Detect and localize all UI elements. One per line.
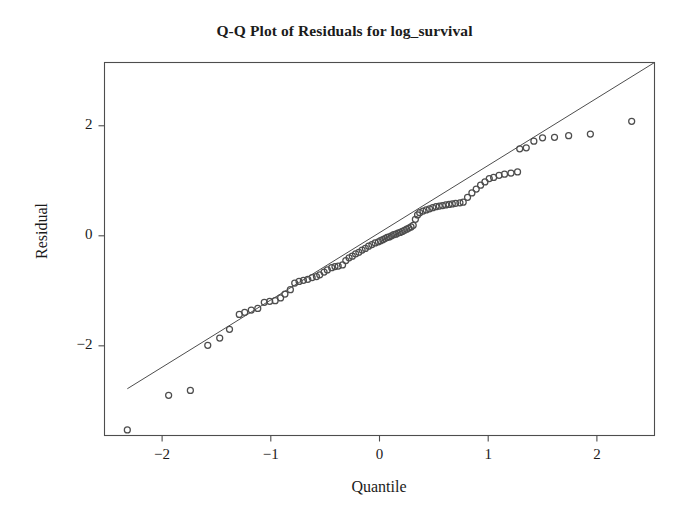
x-tick-label: 2	[577, 446, 617, 463]
x-tick-label: −2	[142, 446, 182, 463]
y-tick-label: 0	[53, 226, 93, 243]
y-tick-label: −2	[53, 336, 93, 353]
x-tick-label: 1	[468, 446, 508, 463]
x-tick-label: −1	[251, 446, 291, 463]
y-tick-label: 2	[53, 116, 93, 133]
qq-plot-figure: Q-Q Plot of Residuals for log_survival R…	[0, 0, 689, 529]
plot-frame	[105, 63, 655, 436]
x-tick-label: 0	[360, 446, 400, 463]
data-points	[124, 118, 634, 433]
axis-ticks	[99, 126, 597, 442]
reference-line	[127, 63, 654, 389]
